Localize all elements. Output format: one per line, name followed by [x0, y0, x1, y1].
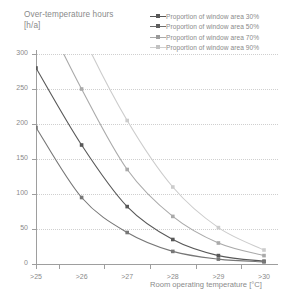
y-axis-label: 100: [2, 189, 28, 196]
over-temperature-hours-chart: Over-temperature hours [h/a] Proportion …: [0, 0, 286, 299]
legend-marker-icon: [150, 33, 166, 42]
x-axis-label: >30: [246, 273, 282, 280]
chart-title-line-2: [h/a]: [24, 20, 114, 31]
data-point[interactable]: [125, 119, 129, 123]
chart-legend: Proportion of window area 30% Proportion…: [150, 11, 259, 53]
y-axis-label: 300: [2, 49, 28, 56]
x-axis-caption: Room operating temperature [°C]: [150, 280, 262, 289]
x-axis-label: >29: [200, 273, 236, 280]
x-axis-label: >28: [155, 273, 191, 280]
legend-label-90: Proportion of window area 90%: [166, 44, 259, 51]
legend-item-70[interactable]: Proportion of window area 70%: [150, 32, 259, 43]
x-axis-label: >25: [18, 273, 54, 280]
legend-item-90[interactable]: Proportion of window area 90%: [150, 43, 259, 54]
y-axis-label: 50: [2, 224, 28, 231]
data-point[interactable]: [171, 215, 175, 219]
y-axis-label: 250: [2, 84, 28, 91]
legend-marker-icon: [150, 43, 166, 52]
legend-item-30[interactable]: Proportion of window area 30%: [150, 11, 259, 22]
data-point[interactable]: [217, 241, 221, 245]
legend-marker-icon: [150, 22, 166, 31]
data-point[interactable]: [80, 143, 84, 147]
legend-label-30: Proportion of window area 30%: [166, 13, 259, 20]
data-point[interactable]: [125, 168, 129, 172]
y-axis-label: 150: [2, 154, 28, 161]
data-point[interactable]: [171, 250, 175, 254]
x-axis-label: >27: [109, 273, 145, 280]
chart-title-line-1: Over-temperature hours: [24, 9, 114, 20]
data-point[interactable]: [34, 66, 38, 70]
data-point[interactable]: [217, 254, 221, 258]
y-axis-label: 200: [2, 119, 28, 126]
data-point[interactable]: [217, 226, 221, 230]
data-point[interactable]: [34, 126, 38, 130]
x-axis-label: >26: [64, 273, 100, 280]
series-line: [36, 128, 264, 262]
plot-area: 050100150200250300>25>26>27>28>29>30: [36, 54, 264, 264]
legend-marker-icon: [150, 12, 166, 21]
series-layer: [36, 54, 280, 266]
series-line: [36, 68, 264, 261]
data-point[interactable]: [262, 254, 266, 258]
y-axis-label: 0: [2, 259, 28, 266]
legend-item-50[interactable]: Proportion of window area 50%: [150, 22, 259, 33]
data-point[interactable]: [262, 248, 266, 252]
data-point[interactable]: [125, 205, 129, 209]
chart-title: Over-temperature hours [h/a]: [24, 9, 114, 31]
data-point[interactable]: [171, 185, 175, 189]
legend-label-50: Proportion of window area 50%: [166, 23, 259, 30]
data-point[interactable]: [80, 87, 84, 91]
data-point[interactable]: [80, 196, 84, 200]
data-point[interactable]: [125, 231, 129, 235]
data-point[interactable]: [262, 260, 266, 264]
data-point[interactable]: [217, 257, 221, 261]
legend-label-70: Proportion of window area 70%: [166, 34, 259, 41]
data-point[interactable]: [171, 238, 175, 242]
